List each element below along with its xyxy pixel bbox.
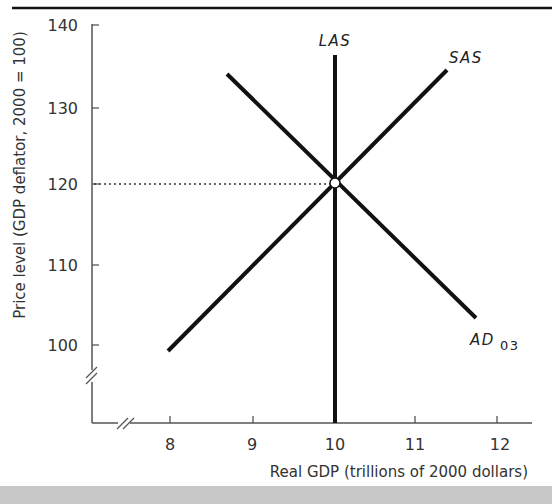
y-tick-110: 110	[47, 256, 78, 275]
x-tick-11: 11	[405, 435, 425, 454]
x-tick-8: 8	[165, 435, 175, 454]
ad-label: AD 03	[469, 331, 520, 353]
x-tick-10: 10	[325, 435, 345, 454]
y-tick-140: 140	[47, 16, 78, 35]
y-tick-130: 130	[47, 99, 78, 118]
bottom-bar	[0, 486, 552, 504]
ad-label-subscript: 03	[500, 338, 520, 353]
equilibrium-point	[330, 178, 340, 188]
y-axis-title: Price level (GDP deflator, 2000 = 100)	[11, 31, 29, 319]
x-axis-title: Real GDP (trillions of 2000 dollars)	[270, 463, 528, 481]
y-tick-120: 120	[47, 175, 78, 194]
sas-label: SAS	[449, 49, 483, 67]
las-label: LAS	[319, 32, 352, 50]
ad-label-main: AD	[469, 331, 495, 349]
y-tick-100: 100	[47, 336, 78, 355]
sas-curve	[168, 70, 447, 351]
x-tick-9: 9	[247, 435, 257, 454]
x-tick-12: 12	[490, 435, 510, 454]
y-axis: 140 130 120 110 100 Price level (GDP def…	[11, 16, 99, 423]
as-ad-chart: 140 130 120 110 100 Price level (GDP def…	[0, 0, 552, 504]
x-axis: 8 9 10 11 12 Real GDP (trillions of 2000…	[92, 416, 532, 481]
ad-curve	[227, 74, 476, 318]
